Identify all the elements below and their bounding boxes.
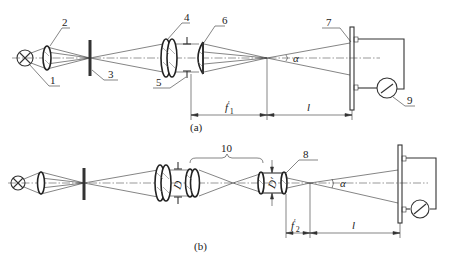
caption-b: (b) xyxy=(194,240,207,253)
part-label-10: 10 xyxy=(221,142,233,154)
objective-lens-icon xyxy=(155,165,171,201)
detector-plate-icon xyxy=(398,145,402,223)
caption-a: (a) xyxy=(190,121,203,134)
part-label-5: 5 xyxy=(156,76,162,88)
part-label-4: 4 xyxy=(184,11,190,23)
aperture-label-D: D xyxy=(170,179,184,192)
condenser-lens-icon xyxy=(43,46,51,70)
telescope-bracket xyxy=(190,154,263,163)
circuit-wire-a xyxy=(358,39,404,89)
part-label-1: 1 xyxy=(50,74,56,86)
distance-label-b: l xyxy=(352,219,355,231)
angle-arc-b xyxy=(332,179,334,188)
light-rays-collimator-b xyxy=(84,170,158,197)
part-label-8: 8 xyxy=(303,148,309,160)
focusing-lens-icon xyxy=(198,42,203,74)
leader-line-8 xyxy=(285,160,318,174)
part-label-2: 2 xyxy=(62,16,68,28)
angle-label-b: α xyxy=(340,177,346,189)
galvanometer-icon xyxy=(411,200,429,218)
part-label-3: 3 xyxy=(108,68,114,80)
telescope-front-lens-icon xyxy=(186,169,200,197)
galvanometer-icon xyxy=(377,78,397,98)
part-label-9: 9 xyxy=(407,94,413,106)
condenser-lens-icon xyxy=(38,172,45,194)
focal-length-label-1: f′1 xyxy=(225,100,234,116)
aperture-label-D-prime: D′ xyxy=(265,175,280,190)
part-label-6: 6 xyxy=(222,14,228,26)
objective-lens-icon xyxy=(161,39,177,77)
optical-system-diagram: α 1 2 3 4 5 6 7 xyxy=(0,0,450,257)
dimension-lines-b xyxy=(286,183,400,238)
subfigure-b: D 10 xyxy=(8,142,436,253)
dimension-lines-a xyxy=(191,58,352,120)
angle-label-a: α xyxy=(293,52,299,64)
light-rays-focus-a xyxy=(204,43,350,75)
leader-lines-a xyxy=(29,23,415,106)
subfigure-a: α 1 2 3 4 5 6 7 xyxy=(12,11,415,134)
part-label-7: 7 xyxy=(326,16,332,28)
distance-label-a: l xyxy=(307,101,310,113)
circuit-wire-b xyxy=(406,158,436,209)
detector-plate-icon xyxy=(350,27,354,110)
